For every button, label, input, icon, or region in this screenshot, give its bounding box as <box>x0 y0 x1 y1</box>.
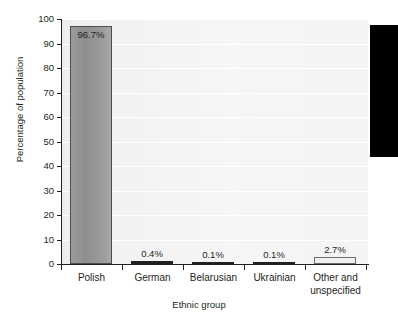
x-axis-category-label-polish: Polish <box>61 272 122 285</box>
x-axis-category-label-other-and-unspecified: Other and unspecified <box>303 272 368 297</box>
y-axis-tick-label: 90 <box>43 39 54 49</box>
x-axis-tick <box>244 265 245 270</box>
chart-page: 100 90 80 70 60 50 40 30 20 10 0 <box>0 0 398 328</box>
x-axis-tick <box>305 265 306 270</box>
bar-belarusian[interactable] <box>192 262 234 264</box>
x-axis-tick <box>61 265 62 270</box>
bar-value-german: 0.4% <box>131 248 173 259</box>
y-axis-tick <box>57 117 61 118</box>
bar-value-other-and-unspecified: 2.7% <box>314 244 356 255</box>
bar-polish[interactable] <box>70 26 112 264</box>
y-axis-tick <box>57 191 61 192</box>
y-axis-tick-label-wrap: 30 <box>0 186 54 196</box>
y-axis-tick-label: 70 <box>43 88 54 98</box>
y-axis-tick-label-wrap: 0 <box>0 259 54 269</box>
x-axis-tick <box>366 265 367 270</box>
y-axis-line <box>61 19 62 265</box>
y-axis-tick <box>57 19 61 20</box>
y-axis-tick-label: 50 <box>43 137 54 147</box>
y-axis-tick-label: 20 <box>43 210 54 220</box>
y-axis-tick <box>57 215 61 216</box>
y-axis-tick-label-wrap: 100 <box>0 14 54 24</box>
y-axis-tick-label: 30 <box>43 186 54 196</box>
y-axis-tick-label: 60 <box>43 112 54 122</box>
y-axis-tick-label: 40 <box>43 161 54 171</box>
x-axis-line <box>61 264 369 265</box>
y-axis-tick-label-wrap: 60 <box>0 112 54 122</box>
bar-value-belarusian: 0.1% <box>192 249 234 260</box>
y-axis-tick-label-wrap: 50 <box>0 137 54 147</box>
x-axis-title: Ethnic group <box>0 299 398 310</box>
bar-value-ukrainian: 0.1% <box>253 249 295 260</box>
bar-ukrainian[interactable] <box>253 262 295 264</box>
y-axis-tick <box>57 166 61 167</box>
y-axis-tick-label: 80 <box>43 63 54 73</box>
x-axis-category-label-german: German <box>122 272 183 285</box>
y-axis-tick-label: 0 <box>49 259 54 269</box>
x-axis-tick <box>183 265 184 270</box>
y-axis-tick <box>57 44 61 45</box>
y-axis-title: Percentage of population <box>14 30 25 190</box>
y-axis-tick <box>57 142 61 143</box>
y-axis-tick-label-wrap: 90 <box>0 39 54 49</box>
y-axis-tick-label: 100 <box>38 14 54 24</box>
y-axis-tick-label-wrap: 80 <box>0 63 54 73</box>
x-axis-category-label-ukrainian: Ukrainian <box>244 272 305 285</box>
y-axis-tick-label-wrap: 40 <box>0 161 54 171</box>
y-axis-tick-label-wrap: 70 <box>0 88 54 98</box>
x-axis-tick <box>122 265 123 270</box>
gridline <box>62 19 368 20</box>
bar-value-polish: 96.7% <box>70 29 112 40</box>
y-axis-tick-label: 10 <box>43 235 54 245</box>
y-axis-tick <box>57 68 61 69</box>
y-axis-tick <box>57 240 61 241</box>
bar-other-and-unspecified[interactable] <box>314 257 356 264</box>
bar-german[interactable] <box>131 261 173 264</box>
black-redaction-block <box>370 25 398 157</box>
y-axis-tick-label-wrap: 10 <box>0 235 54 245</box>
y-axis-tick <box>57 93 61 94</box>
y-axis-tick-label-wrap: 20 <box>0 210 54 220</box>
x-axis-category-label-belarusian: Belarusian <box>183 272 244 285</box>
